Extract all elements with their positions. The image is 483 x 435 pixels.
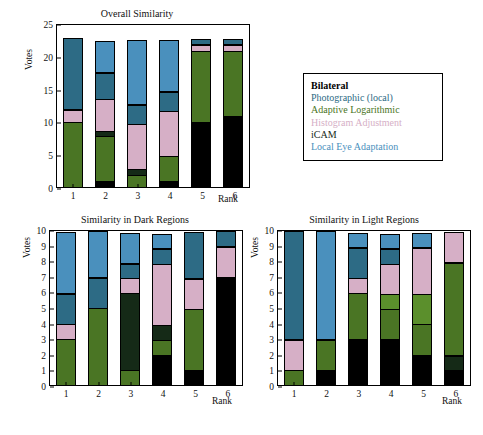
bar-segment[interactable] (184, 279, 204, 310)
bar-segment[interactable] (216, 277, 236, 386)
bar-segment[interactable] (88, 278, 108, 309)
bar-segment[interactable] (380, 264, 400, 295)
bar-segment[interactable] (191, 122, 211, 188)
stacked-bar[interactable] (412, 231, 432, 385)
bar-segment[interactable] (184, 232, 204, 279)
bar-segment[interactable] (380, 234, 400, 250)
stacked-bar[interactable] (184, 231, 204, 385)
bar-segment[interactable] (444, 370, 464, 386)
bar-segment[interactable] (348, 339, 368, 386)
stacked-bar[interactable] (223, 25, 243, 187)
stacked-bar[interactable] (95, 25, 115, 187)
bar-group-3[interactable] (114, 231, 146, 385)
stacked-bar[interactable] (191, 25, 211, 187)
bar-group-3[interactable] (121, 25, 153, 187)
bar-segment[interactable] (284, 231, 304, 340)
bar-segment[interactable] (63, 38, 83, 110)
bar-segment[interactable] (159, 92, 179, 112)
bar-group-4[interactable] (153, 25, 185, 187)
bar-segment[interactable] (152, 325, 172, 341)
bar-segment[interactable] (380, 249, 400, 265)
bar-segment[interactable] (120, 293, 140, 371)
bar-segment[interactable] (159, 111, 179, 157)
bar-segment[interactable] (56, 294, 76, 325)
stacked-bar[interactable] (216, 231, 236, 385)
bar-group-5[interactable] (406, 231, 438, 385)
bar-group-5[interactable] (185, 25, 217, 187)
bar-segment[interactable] (63, 122, 83, 188)
bar-segment[interactable] (316, 231, 336, 340)
bar-segment[interactable] (127, 105, 147, 125)
bar-group-6[interactable] (210, 231, 242, 385)
bar-segment[interactable] (88, 231, 108, 278)
bar-segment[interactable] (412, 248, 432, 295)
stacked-bar[interactable] (63, 25, 83, 187)
bar-segment[interactable] (412, 324, 432, 355)
bar-segment[interactable] (184, 370, 204, 386)
bar-group-4[interactable] (146, 231, 178, 385)
bar-group-4[interactable] (374, 231, 406, 385)
stacked-bar[interactable] (380, 231, 400, 385)
stacked-bar[interactable] (284, 231, 304, 385)
stacked-bar[interactable] (120, 231, 140, 385)
stacked-bar[interactable] (56, 231, 76, 385)
bar-segment[interactable] (152, 249, 172, 265)
bar-segment[interactable] (223, 116, 243, 188)
bar-segment[interactable] (223, 51, 243, 117)
bar-segment[interactable] (88, 308, 108, 386)
bar-segment[interactable] (412, 233, 432, 249)
bar-segment[interactable] (412, 355, 432, 386)
bar-segment[interactable] (284, 340, 304, 371)
bar-segment[interactable] (184, 309, 204, 371)
bar-segment[interactable] (152, 340, 172, 356)
stacked-bar[interactable] (159, 25, 179, 187)
bar-segment[interactable] (120, 278, 140, 294)
bar-segment[interactable] (348, 248, 368, 279)
bar-segment[interactable] (127, 124, 147, 170)
stacked-bar[interactable] (348, 231, 368, 385)
stacked-bar[interactable] (127, 25, 147, 187)
bar-segment[interactable] (444, 356, 464, 372)
bar-segment[interactable] (380, 339, 400, 386)
stacked-bar[interactable] (152, 231, 172, 385)
bar-segment[interactable] (56, 232, 76, 294)
bar-group-1[interactable] (57, 25, 89, 187)
bar-segment[interactable] (152, 234, 172, 250)
bar-segment[interactable] (444, 232, 464, 263)
bar-group-6[interactable] (217, 25, 249, 187)
bar-segment[interactable] (95, 136, 115, 182)
bar-segment[interactable] (380, 309, 400, 340)
bar-segment[interactable] (120, 264, 140, 280)
bar-segment[interactable] (56, 339, 76, 386)
bar-segment[interactable] (348, 233, 368, 249)
bar-group-1[interactable] (50, 231, 82, 385)
bar-group-5[interactable] (178, 231, 210, 385)
bar-segment[interactable] (348, 293, 368, 340)
bar-group-2[interactable] (89, 25, 121, 187)
bar-segment[interactable] (95, 73, 115, 99)
bar-segment[interactable] (380, 294, 400, 310)
bar-segment[interactable] (412, 294, 432, 325)
bar-segment[interactable] (191, 51, 211, 123)
bar-segment[interactable] (95, 99, 115, 132)
bar-group-1[interactable] (278, 231, 310, 385)
bar-segment[interactable] (316, 340, 336, 371)
bar-segment[interactable] (444, 263, 464, 357)
bar-segment[interactable] (63, 110, 83, 123)
stacked-bar[interactable] (88, 231, 108, 385)
bar-segment[interactable] (120, 233, 140, 264)
bar-group-2[interactable] (82, 231, 114, 385)
bar-group-2[interactable] (310, 231, 342, 385)
stacked-bar[interactable] (444, 231, 464, 385)
bar-segment[interactable] (152, 264, 172, 326)
bar-segment[interactable] (127, 40, 147, 106)
bar-segment[interactable] (56, 324, 76, 340)
bar-group-6[interactable] (438, 231, 470, 385)
bar-segment[interactable] (95, 41, 115, 74)
bar-segment[interactable] (159, 40, 179, 92)
bar-segment[interactable] (216, 247, 236, 278)
bar-segment[interactable] (348, 278, 368, 294)
stacked-bar[interactable] (316, 231, 336, 385)
bar-segment[interactable] (216, 231, 236, 247)
bar-group-3[interactable] (342, 231, 374, 385)
